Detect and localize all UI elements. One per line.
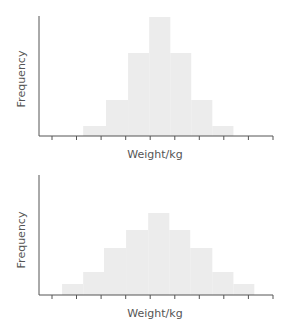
histogram-bar (104, 248, 126, 295)
histogram-bar (83, 126, 106, 136)
y-axis-label: Frequency (15, 50, 28, 107)
histogram-bar (169, 230, 190, 295)
histogram-bar (128, 53, 149, 136)
bars-group (83, 17, 233, 136)
histogram-bar (212, 126, 233, 136)
histogram-bar (191, 100, 212, 136)
histogram-wide-svg: Frequency Weight/kg (0, 159, 289, 329)
histogram-bar (62, 284, 83, 295)
histogram-bar (190, 248, 212, 295)
histogram-narrow: Frequency Weight/kg (0, 0, 289, 164)
y-axis-label: Frequency (15, 211, 28, 268)
histogram-narrow-svg: Frequency Weight/kg (0, 0, 289, 164)
histogram-bar (212, 272, 233, 295)
histogram-bar (106, 100, 128, 136)
histogram-bar (233, 284, 254, 295)
bars-group (62, 213, 254, 295)
histogram-bar (126, 230, 148, 295)
histogram-wide: Frequency Weight/kg (0, 159, 289, 323)
histogram-bar (170, 53, 191, 136)
histogram-bar (83, 272, 104, 295)
histogram-bar (149, 17, 170, 136)
x-axis-label: Weight/kg (127, 307, 182, 320)
histogram-bar (148, 213, 169, 295)
